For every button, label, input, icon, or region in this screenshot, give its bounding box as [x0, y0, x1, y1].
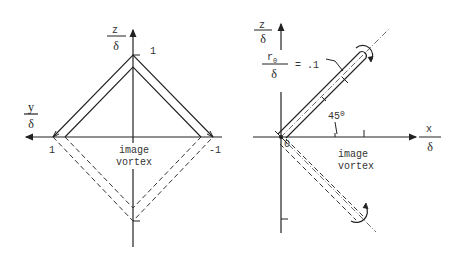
- angle-label: 450: [328, 109, 345, 122]
- delta-label-z-left: δ: [113, 39, 119, 53]
- right-panel: 0 z δ r0 δ = .1 450 x δ image vortex: [253, 20, 441, 233]
- r-label: r0: [267, 52, 277, 65]
- x-label: x: [426, 124, 432, 135]
- delta-label-y: δ: [28, 117, 34, 131]
- image-caption-line2-right: vortex: [338, 161, 374, 172]
- radius-value: = .1: [295, 60, 319, 71]
- image-rotation-arrow-icon: [351, 206, 367, 222]
- delta-label-r: δ: [271, 67, 277, 81]
- radius-leader: [326, 59, 343, 71]
- z-label-right: z: [259, 20, 265, 31]
- image-caption-line1-right: image: [338, 149, 368, 160]
- angle-leader: [335, 122, 337, 134]
- delta-label-x: δ: [427, 140, 433, 154]
- y-tick-label-neg-one: -1: [209, 145, 221, 156]
- left-panel: z δ y δ 1 1 -1 image vortex: [24, 25, 222, 247]
- origin-label: 0: [284, 139, 290, 150]
- vortex-diagram: z δ y δ 1 1 -1 image vortex: [0, 0, 461, 257]
- z-label-left: z: [112, 25, 118, 36]
- delta-label-z-right: δ: [260, 32, 266, 46]
- y-label: y: [28, 100, 34, 114]
- image-caption-line2-left: vortex: [116, 157, 152, 168]
- image-caption-line1-left: image: [119, 145, 149, 156]
- y-tick-label-one: 1: [49, 145, 55, 156]
- z-tick-label-one: 1: [150, 46, 156, 57]
